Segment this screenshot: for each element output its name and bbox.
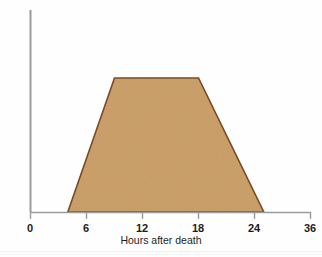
x-tick-label-0: 0 [27, 223, 33, 234]
x-tick-label-36: 36 [304, 223, 316, 234]
x-axis-title: Hours after death [0, 235, 322, 246]
x-tick-label-18: 18 [192, 223, 204, 234]
data-series-degree-of-firming [68, 78, 264, 212]
area-fill [68, 78, 264, 212]
x-tick-label-6: 6 [83, 223, 89, 234]
chart-figure: 0 6 12 18 24 36 Hours after death Degree… [0, 0, 322, 257]
x-tick-label-24: 24 [248, 223, 260, 234]
x-tick-label-12: 12 [136, 223, 148, 234]
plot-area [0, 0, 322, 257]
